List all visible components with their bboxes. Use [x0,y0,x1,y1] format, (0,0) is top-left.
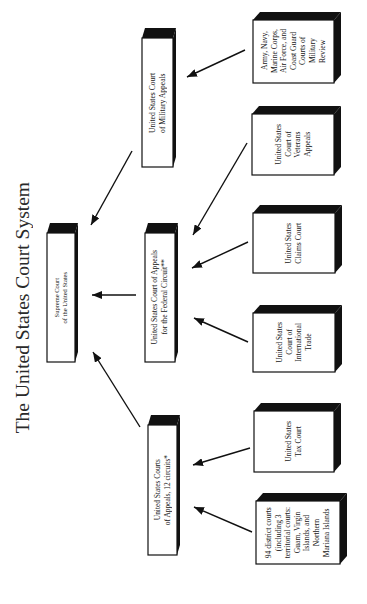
box-text: 94 district courts (including 3 territor… [264,507,331,558]
box-line: Mariana Islands [322,507,332,558]
box-line: Coast Guard [289,29,299,73]
box-text: Army, Navy, Marine Corps, Air Force, and… [260,29,327,73]
box-line: Court of [283,124,293,165]
arrow-tax-to-circuits [193,448,250,465]
box-line: United States [284,223,294,264]
box-line: Army, Navy, [260,29,270,73]
box-text: United States Tax Court [284,421,303,462]
label-district-courts: 94 district courts (including 3 territor… [256,501,340,564]
box-line: Marine Corps, [270,29,280,73]
box-text: Supreme Court of the United States [53,272,69,323]
label-court-of-appeals-federal-circuit: United States Court of Appeals for the F… [145,233,175,362]
arrow-district-to-circuits [194,507,252,532]
box-text: United States Claims Court [284,223,303,264]
court-system-diagram: The United States Court System Supreme C… [0,0,367,604]
box-line: Review [317,29,327,73]
box-line: Courts of [298,29,308,73]
box-line: 94 district courts [264,507,274,558]
label-courts-of-appeals-12-circuits: United States Courts of Appeals, 12 circ… [148,425,177,555]
box-line: Trade [304,322,314,363]
box-line: for the Federal Circuit** [160,250,170,345]
arrow-circuits-to-supreme [93,352,140,427]
box-text: United States Court of Military Appeals [148,73,168,133]
box-line: United States [274,124,284,165]
arrow-veterans-to-federal-circuit [193,143,247,235]
box-text: United States Court of Appeals for the F… [150,250,170,345]
label-court-of-military-appeals: United States Court of Military Appeals [142,38,173,167]
box-text: United States Court of International Tra… [275,322,313,363]
arrow-military-appeals-to-supreme [91,151,132,225]
box-line: Appeals [303,124,313,165]
box-line: International [294,322,304,363]
label-court-of-veterans-appeals: United States Court of Veterans Appeals [252,114,334,175]
box-line: of Military Appeals [158,73,168,133]
box-text: United States Courts of Appeals, 12 circ… [153,455,173,525]
box-line: Claims Court [294,223,304,264]
box-line: of the United States [61,272,69,323]
box-line: Northern [312,507,322,558]
box-line: Supreme Court [53,272,61,323]
box-line: United States [284,421,294,462]
box-line: Guam, Virgin [293,507,303,558]
box-line: Tax Court [294,421,304,462]
arrow-trade-to-federal-circuit [194,318,248,342]
box-line: United States Courts [153,455,163,525]
label-claims-court: United States Claims Court [253,213,335,273]
box-line: Islands, and [303,507,313,558]
arrow-military-review-to-military-appeals [187,50,245,77]
arrow-claims-to-federal-circuit [192,242,248,268]
label-tax-court: United States Tax Court [254,411,334,472]
label-supreme-court: Supreme Court of the United States [47,233,75,362]
box-line: Court of [284,322,294,363]
box-line: United States Court of Appeals [150,250,160,345]
box-line: of Appeals, 12 circuits* [163,455,173,525]
diagram-title: The United States Court System [12,182,34,433]
box-line: United States Court [148,73,158,133]
box-line: United States [275,322,285,363]
box-line: territorial courts: [284,507,294,558]
box-line: Veterans [293,124,303,165]
label-courts-of-military-review: Army, Navy, Marine Corps, Air Force, and… [253,20,334,83]
label-court-of-international-trade: United States Court of International Tra… [253,313,335,372]
box-line: Military [308,29,318,73]
title-container: The United States Court System [10,172,36,444]
box-text: United States Court of Veterans Appeals [274,124,312,165]
box-line: Air Force, and [279,29,289,73]
box-line: (including 3 [274,507,284,558]
